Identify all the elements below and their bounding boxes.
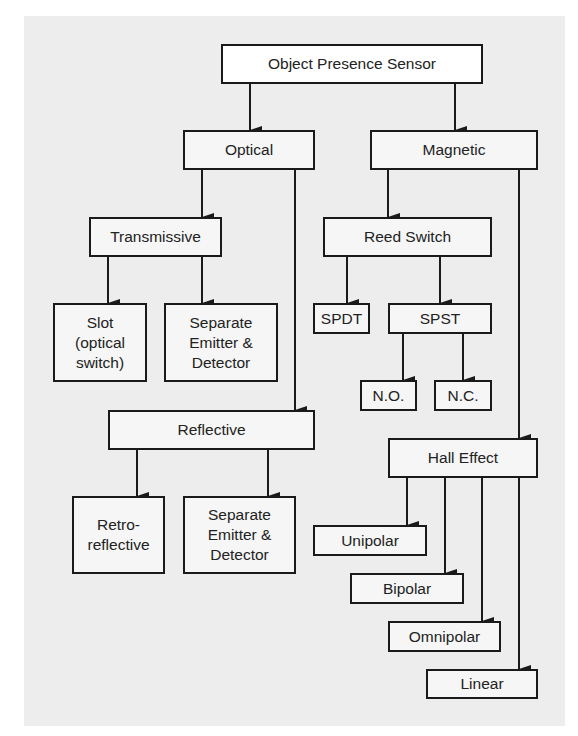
node-label: Magnetic [423,140,486,160]
node-spdt: SPDT [313,303,370,334]
node-label: Linear [460,674,503,694]
node-normally-open: N.O. [360,380,417,411]
node-label-line: reflective [87,535,149,555]
node-label-line: Slot [87,313,114,333]
node-label: SPDT [321,309,362,329]
node-label: SPST [420,309,460,329]
node-reflective-separate-emitter-detector: Separate Emitter & Detector [183,496,296,574]
node-label: Reflective [177,420,245,440]
node-label-line: switch) [76,353,124,373]
node-label-line: Separate [190,313,253,333]
node-label-line: Emitter & [208,525,272,545]
node-label: Unipolar [341,531,399,551]
node-transmissive: Transmissive [89,217,222,257]
node-linear: Linear [426,669,538,699]
node-normally-closed: N.C. [434,380,492,411]
node-reflective: Reflective [108,410,315,450]
node-hall-effect: Hall Effect [388,438,538,478]
node-label: Reed Switch [364,227,451,247]
node-transmissive-separate-emitter-detector: Separate Emitter & Detector [164,303,278,382]
node-slot-optical-switch: Slot (optical switch) [53,303,147,382]
node-label: Optical [225,140,273,160]
node-label: Omnipolar [409,627,481,647]
node-optical: Optical [183,130,315,170]
node-label: Transmissive [110,227,201,247]
node-bipolar: Bipolar [350,573,464,604]
node-label: Bipolar [383,579,431,599]
node-reed-switch: Reed Switch [323,217,492,257]
node-label-line: (optical [75,333,125,353]
node-magnetic: Magnetic [370,130,538,170]
node-label: Object Presence Sensor [268,54,436,74]
node-omnipolar: Omnipolar [388,621,501,652]
node-unipolar: Unipolar [313,525,427,556]
node-label-line: Separate [208,505,271,525]
node-label: Hall Effect [428,448,498,468]
node-label-line: Detector [210,545,269,565]
node-object-presence-sensor: Object Presence Sensor [221,44,483,84]
node-label: N.C. [448,386,479,406]
node-spst: SPST [388,303,492,334]
node-retroreflective: Retro- reflective [72,496,165,574]
node-label: N.O. [373,386,405,406]
node-label-line: Emitter & [189,333,253,353]
node-label-line: Detector [192,353,251,373]
node-label-line: Retro- [97,515,140,535]
